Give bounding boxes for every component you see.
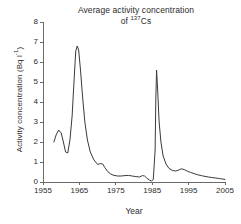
chart-figure: Average activity concentration of 137Cs …: [0, 0, 241, 224]
data-series-group: [54, 46, 225, 181]
plot-area: [0, 0, 241, 224]
axes-group: [40, 22, 225, 185]
data-line: [54, 46, 225, 181]
